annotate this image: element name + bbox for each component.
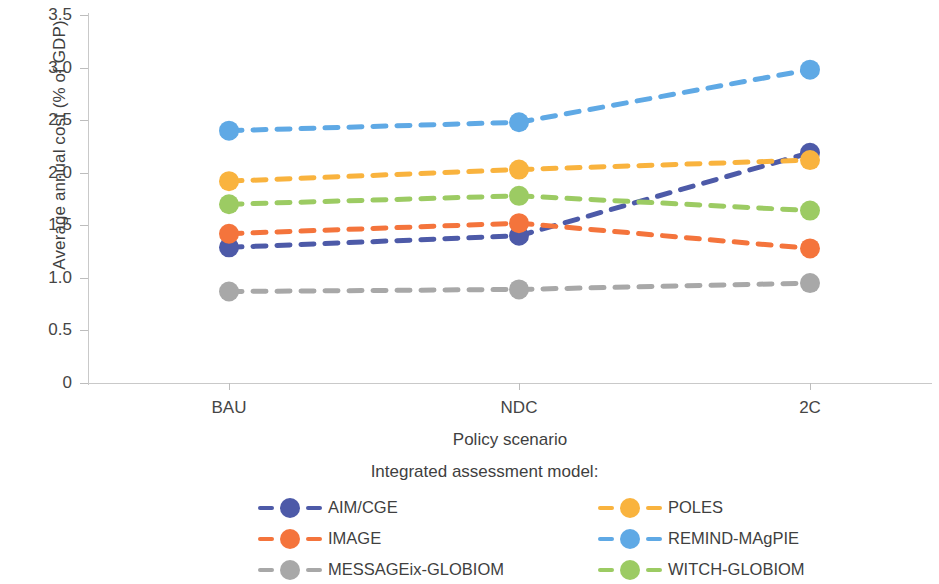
y-tick-mark (80, 383, 88, 384)
x-axis-title: Policy scenario (88, 430, 932, 450)
legend-item[interactable]: POLES (598, 497, 938, 519)
series-line-segment (229, 289, 519, 291)
legend-dot-icon (280, 498, 300, 518)
y-tick-mark (80, 120, 88, 121)
legend-dash-icon (598, 568, 614, 573)
data-point-marker (219, 121, 239, 141)
legend-item[interactable]: MESSAGEix-GLOBIOM (258, 559, 598, 581)
x-tick-mark (519, 383, 520, 390)
data-point-marker (509, 213, 529, 233)
legend-swatch-icon (258, 497, 322, 519)
legend-item[interactable]: WITCH-GLOBIOM (598, 559, 938, 581)
legend-dash-icon (306, 568, 322, 573)
series-line-segment (519, 223, 810, 248)
series-line-segment (229, 196, 519, 204)
y-tick-mark (80, 225, 88, 226)
y-tick-mark (80, 173, 88, 174)
series-line-segment (519, 160, 810, 169)
series-line-segment (229, 170, 519, 182)
y-tick-label: 0 (10, 374, 72, 391)
legend-swatch-icon (258, 528, 322, 550)
data-point-marker (800, 273, 820, 293)
series-line-segment (519, 70, 810, 123)
legend-dash-icon (646, 537, 662, 542)
legend-dot-icon (620, 529, 640, 549)
y-tick-label: 1.0 (10, 269, 72, 286)
legend-item-label: REMIND-MAgPIE (662, 529, 799, 548)
chart-legend: Integrated assessment model: AIM/CGEPOLE… (0, 462, 939, 584)
x-axis-line (88, 383, 932, 384)
legend-dash-icon (306, 506, 322, 511)
legend-dash-icon (258, 568, 274, 573)
legend-dash-icon (646, 568, 662, 573)
legend-item-label: MESSAGEix-GLOBIOM (322, 560, 504, 579)
legend-dash-icon (598, 537, 614, 542)
data-point-marker (800, 201, 820, 221)
data-point-marker (509, 226, 529, 246)
data-point-marker (219, 171, 239, 191)
legend-item-label: AIM/CGE (322, 498, 398, 517)
chart-figure: Average annual cost (% of GDP) 00.51.01.… (0, 0, 939, 584)
data-point-marker (509, 186, 529, 206)
legend-dash-icon (646, 506, 662, 511)
legend-item[interactable]: AIM/CGE (258, 497, 598, 519)
legend-dot-icon (280, 560, 300, 580)
legend-swatch-icon (598, 528, 662, 550)
legend-entries: AIM/CGEPOLESIMAGEREMIND-MAgPIEMESSAGEix-… (258, 492, 938, 584)
legend-swatch-icon (598, 497, 662, 519)
y-tick-mark (80, 15, 88, 16)
x-tick-mark (229, 383, 230, 390)
legend-dot-icon (620, 498, 640, 518)
x-tick-label: 2C (750, 398, 870, 418)
data-point-marker (219, 224, 239, 244)
series-line-segment (519, 196, 810, 211)
legend-item-label: IMAGE (322, 529, 381, 548)
legend-swatch-icon (258, 559, 322, 581)
y-tick-label: 3.5 (10, 6, 72, 23)
data-point-marker (219, 237, 239, 257)
y-tick-label: 2.5 (10, 111, 72, 128)
legend-item[interactable]: IMAGE (258, 528, 598, 550)
y-tick-mark (80, 330, 88, 331)
data-point-marker (219, 194, 239, 214)
legend-item-label: WITCH-GLOBIOM (662, 560, 805, 579)
data-point-marker (800, 143, 820, 163)
legend-dot-icon (280, 529, 300, 549)
y-axis-line (88, 13, 89, 385)
y-tick-label: 0.5 (10, 321, 72, 338)
series-line-segment (519, 283, 810, 289)
legend-swatch-icon (598, 559, 662, 581)
data-point-marker (509, 160, 529, 180)
legend-item[interactable]: REMIND-MAgPIE (598, 528, 938, 550)
series-line-segment (229, 236, 519, 248)
legend-dash-icon (258, 537, 274, 542)
data-point-marker (509, 112, 529, 132)
legend-dash-icon (598, 506, 614, 511)
data-point-marker (509, 279, 529, 299)
legend-dash-icon (306, 537, 322, 542)
y-tick-mark (80, 278, 88, 279)
x-tick-mark (810, 383, 811, 390)
series-line-segment (519, 153, 810, 236)
y-tick-mark (80, 68, 88, 69)
legend-dot-icon (620, 560, 640, 580)
legend-title: Integrated assessment model: (30, 462, 939, 482)
data-point-marker (800, 238, 820, 258)
legend-dash-icon (258, 506, 274, 511)
data-point-marker (219, 282, 239, 302)
data-point-marker (800, 150, 820, 170)
y-tick-label: 1.5 (10, 216, 72, 233)
series-line-segment (229, 223, 519, 234)
y-tick-label: 3.0 (10, 59, 72, 76)
x-tick-label: BAU (169, 398, 289, 418)
x-tick-label: NDC (459, 398, 579, 418)
y-tick-label: 2.0 (10, 164, 72, 181)
legend-item-label: POLES (662, 498, 723, 517)
data-point-marker (800, 60, 820, 80)
series-line-segment (229, 122, 519, 130)
